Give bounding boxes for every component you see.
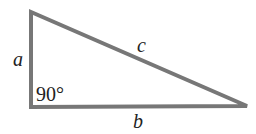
side-c-label: c bbox=[137, 34, 146, 56]
side-b-label: b bbox=[133, 110, 143, 132]
side-a-label: a bbox=[13, 48, 23, 70]
right-angle-label: 90° bbox=[36, 83, 64, 105]
right-triangle-diagram: a c b 90° bbox=[0, 0, 256, 134]
